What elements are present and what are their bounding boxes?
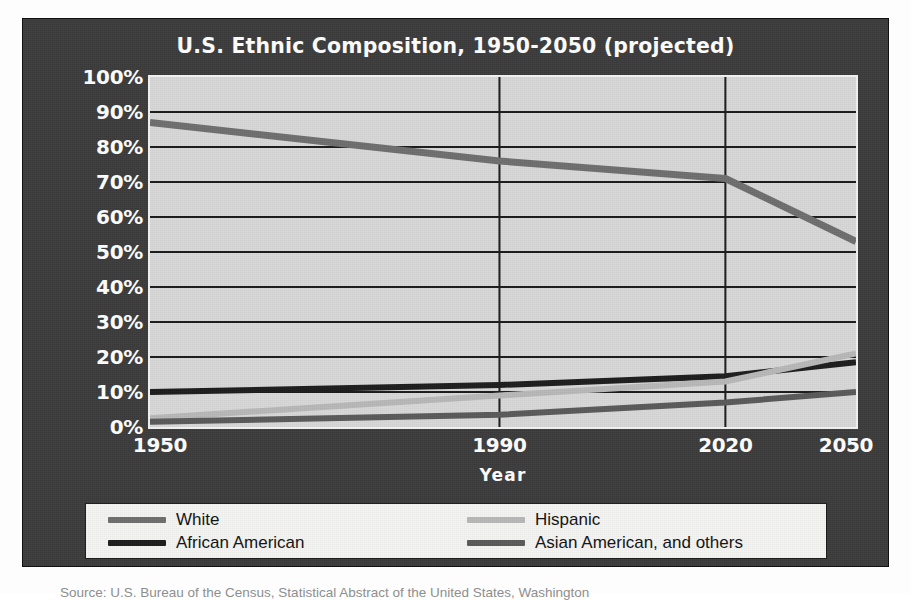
- y-tick-label: 40%: [96, 275, 143, 299]
- y-tick-label: 70%: [96, 170, 143, 194]
- legend-label: Hispanic: [535, 510, 600, 530]
- legend-swatch-icon: [467, 517, 525, 523]
- y-tick-label: 100%: [82, 65, 143, 89]
- legend-box: WhiteHispanicAfrican AmericanAsian Ameri…: [85, 503, 827, 559]
- source-caption: Source: U.S. Bureau of the Census, Stati…: [60, 585, 860, 600]
- legend-swatch-icon: [467, 540, 525, 546]
- y-axis-tick-labels: 0%10%20%30%40%50%60%70%80%90%100%: [51, 75, 143, 429]
- x-tick-label: 1950: [133, 433, 187, 457]
- plot-inner: [150, 77, 856, 427]
- legend-item[interactable]: Hispanic: [467, 510, 826, 530]
- legend-item[interactable]: African American: [108, 533, 467, 553]
- legend-item[interactable]: White: [108, 510, 467, 530]
- figure-panel: U.S. Ethnic Composition, 1950-2050 (proj…: [22, 18, 889, 567]
- legend-grid: WhiteHispanicAfrican AmericanAsian Ameri…: [86, 504, 826, 558]
- x-tick-label: 2050: [819, 433, 873, 457]
- series-lines: [150, 77, 856, 427]
- legend-swatch-icon: [108, 540, 166, 546]
- chart-area: 0%10%20%30%40%50%60%70%80%90%100% 195019…: [23, 19, 888, 566]
- x-axis-tick-labels: 1950199020202050: [148, 433, 858, 461]
- x-tick-label: 2020: [698, 433, 752, 457]
- legend-label: White: [176, 510, 219, 530]
- x-axis-title: Year: [148, 465, 858, 485]
- plot-area: [148, 75, 858, 429]
- y-tick-label: 80%: [96, 135, 143, 159]
- y-tick-label: 20%: [96, 345, 143, 369]
- x-tick-label: 1990: [472, 433, 526, 457]
- legend-label: Asian American, and others: [535, 533, 743, 553]
- y-tick-label: 90%: [96, 100, 143, 124]
- legend-swatch-icon: [108, 517, 166, 523]
- y-tick-label: 10%: [96, 380, 143, 404]
- y-tick-label: 60%: [96, 205, 143, 229]
- y-tick-label: 30%: [96, 310, 143, 334]
- legend-label: African American: [176, 533, 305, 553]
- legend-item[interactable]: Asian American, and others: [467, 533, 826, 553]
- y-tick-label: 50%: [96, 240, 143, 264]
